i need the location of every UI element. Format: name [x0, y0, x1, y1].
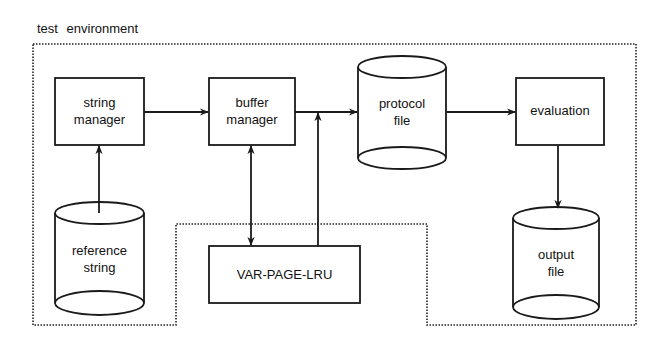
var-page-lru-label: VAR-PAGE-LRU — [209, 266, 360, 283]
output-file-label-line1: output — [513, 246, 599, 263]
diagram-canvas: test environment — [0, 0, 662, 346]
reference-string-node: reference string — [55, 242, 144, 276]
buffer-manager-label-line1: buffer — [209, 94, 295, 111]
evaluation-label: evaluation — [516, 102, 604, 119]
output-file-node: output file — [513, 246, 599, 280]
string-manager-label-line1: string — [55, 94, 144, 111]
evaluation-node: evaluation — [516, 102, 604, 119]
string-manager-node: string manager — [55, 94, 144, 128]
buffer-manager-label-line2: manager — [209, 111, 295, 128]
var-page-lru-node: VAR-PAGE-LRU — [209, 266, 360, 283]
buffer-manager-node: buffer manager — [209, 94, 295, 128]
reference-string-label-line1: reference — [55, 242, 144, 259]
reference-string-label-line2: string — [55, 259, 144, 276]
protocol-file-label-line1: protocol — [358, 95, 446, 112]
protocol-file-label-line2: file — [358, 112, 446, 129]
diagram-graphics — [0, 0, 662, 346]
string-manager-label-line2: manager — [55, 111, 144, 128]
protocol-file-node: protocol file — [358, 95, 446, 129]
output-file-label-line2: file — [513, 263, 599, 280]
